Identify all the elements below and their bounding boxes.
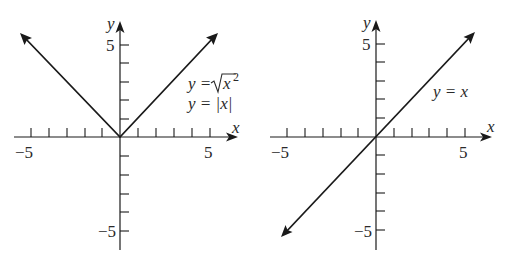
left-y-ticks	[120, 45, 129, 231]
right-identity-line	[285, 36, 471, 233]
right-y-pos-label: 5	[362, 35, 371, 54]
right-x-pos-label: 5	[459, 143, 468, 162]
left-abs-curve	[24, 37, 214, 137]
left-x-neg-label: −5	[15, 143, 33, 162]
right-x-neg-label: −5	[271, 143, 289, 162]
svg-text:y =: y =	[186, 74, 216, 93]
right-equation: y = x	[431, 82, 469, 101]
svg-text:x: x	[222, 74, 231, 93]
right-y-neg-label: −5	[354, 222, 372, 241]
right-graph: y x 5 −5 −5 5 y = x	[270, 13, 495, 250]
left-y-axis-label: y	[105, 14, 115, 33]
left-equation-sqrt: y = x 2	[186, 70, 239, 93]
left-x-axis-label: x	[231, 118, 240, 137]
left-equation-abs: y = |x|	[186, 94, 232, 113]
svg-text:2: 2	[233, 70, 239, 84]
left-x-pos-label: 5	[204, 143, 213, 162]
right-x-axis-label: x	[486, 117, 495, 136]
right-y-axis-label: y	[361, 13, 371, 32]
left-y-neg-label: −5	[98, 222, 116, 241]
left-y-pos-label: 5	[106, 36, 115, 55]
left-graph: y x 5 −5 −5 5 y = x 2 y = |x|	[14, 14, 240, 250]
